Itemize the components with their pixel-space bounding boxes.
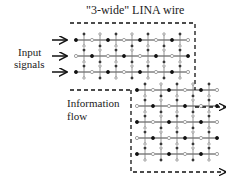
node-grid <box>74 33 218 161</box>
input-arrows <box>52 40 66 72</box>
lina-wire-diagram <box>0 0 240 179</box>
